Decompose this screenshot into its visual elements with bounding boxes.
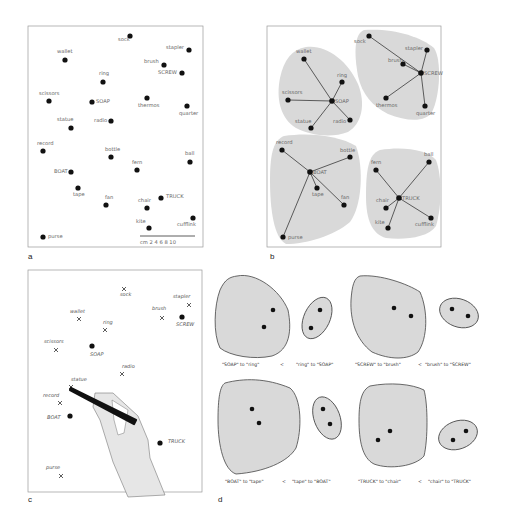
comparison-op-3: < xyxy=(282,479,286,484)
dot xyxy=(262,325,267,330)
dot xyxy=(308,125,313,130)
item-label: wallet xyxy=(57,48,73,54)
panel-d-asymmetry: "SOAP" to "ring" < "ring" to "SOAP" "SCR… xyxy=(215,275,482,504)
dot xyxy=(422,103,427,108)
comparison-op-4: < xyxy=(418,479,422,484)
figure: sockstaplerwalletbrushSCREWringscissorsS… xyxy=(0,0,506,522)
item-label: radio xyxy=(333,118,346,124)
landmark-label: SCREW xyxy=(176,321,195,327)
item-label: quarter xyxy=(179,110,199,117)
item-label: purse xyxy=(288,234,303,241)
item-label: BOAT xyxy=(54,168,69,174)
comparison-right-1: "ring" to "SOAP" xyxy=(296,362,333,367)
item-label: chair xyxy=(376,197,390,203)
dot xyxy=(321,407,326,412)
comparison-op-1: < xyxy=(280,362,284,367)
blob-tape-small xyxy=(307,393,346,443)
comparison-left-2: "SCREW" to "brush" xyxy=(355,362,401,367)
panel-c-recall-task: sockstaplerwalletbrushringscissorsradios… xyxy=(28,270,202,504)
item-label: statue xyxy=(57,116,73,122)
dot xyxy=(464,429,469,434)
dot xyxy=(424,47,429,52)
blob-boat-large xyxy=(218,380,300,474)
dot xyxy=(134,167,139,172)
item-label: quarter xyxy=(416,110,436,117)
dot xyxy=(187,159,192,164)
dot xyxy=(285,97,290,102)
dot xyxy=(318,308,323,313)
dot xyxy=(392,306,397,311)
item-label: thermos xyxy=(138,102,160,108)
dot xyxy=(100,79,105,84)
dot xyxy=(179,70,184,75)
dot xyxy=(301,56,306,61)
dot xyxy=(68,169,73,174)
blob-truck-large xyxy=(359,384,427,467)
item-label: thermos xyxy=(376,102,398,108)
item-label: wallet xyxy=(296,48,312,54)
item-label: ring xyxy=(103,319,113,326)
dot xyxy=(146,225,151,230)
item-label: brush xyxy=(144,58,159,64)
item-label: record xyxy=(43,392,60,398)
hub-dot xyxy=(418,70,424,76)
item-label: tape xyxy=(312,191,324,198)
dot xyxy=(40,148,45,153)
dot xyxy=(388,429,393,434)
dot xyxy=(68,125,73,130)
item-label: radio xyxy=(122,363,135,369)
dot xyxy=(279,147,284,152)
item-label: statue xyxy=(71,376,87,382)
dot xyxy=(271,308,276,313)
item-label: wallet xyxy=(70,308,86,314)
dot xyxy=(451,438,456,443)
dot xyxy=(179,314,184,319)
dot xyxy=(309,326,314,331)
panel-a-frame xyxy=(28,26,203,247)
dot xyxy=(347,117,352,122)
blob-soap-large xyxy=(215,275,290,357)
item-label: brush xyxy=(152,305,166,311)
dot xyxy=(62,57,67,62)
dot xyxy=(426,159,431,164)
dot xyxy=(341,202,346,207)
hub-label: SCREW xyxy=(424,70,443,76)
hub-dot xyxy=(396,195,402,201)
item-label: ball xyxy=(185,150,194,156)
comparison-left-3: "BOAT" to "tape" xyxy=(225,479,264,484)
dot xyxy=(184,103,189,108)
scale-label: cm 2 4 6 8 10 xyxy=(140,239,176,245)
item-label: stapler xyxy=(173,293,191,300)
dot xyxy=(46,98,51,103)
hub-dot xyxy=(329,98,335,104)
item-label: fan xyxy=(341,194,349,200)
dot xyxy=(75,185,80,190)
dot xyxy=(428,215,433,220)
dot xyxy=(108,154,113,159)
comparison-op-2: < xyxy=(418,362,422,367)
dot xyxy=(144,95,149,100)
item-label: scissors xyxy=(44,338,64,344)
item-label: radio xyxy=(94,117,107,123)
item-label: fern xyxy=(132,159,142,165)
item-label: stapler xyxy=(166,44,185,51)
dot xyxy=(89,99,94,104)
item-label: ring xyxy=(99,70,109,77)
item-label: cufflink xyxy=(177,221,196,227)
hub-label: BOAT xyxy=(313,169,328,175)
item-label: bottle xyxy=(340,147,355,153)
comparison-left-1: "SOAP" to "ring" xyxy=(222,362,259,367)
item-label: purse xyxy=(45,464,60,471)
dot xyxy=(366,33,371,38)
dot xyxy=(40,234,45,239)
item-label: bottle xyxy=(105,146,120,152)
dot xyxy=(280,234,285,239)
landmark-label: SOAP xyxy=(90,351,104,357)
dot xyxy=(186,47,191,52)
item-label: SCREW xyxy=(158,69,177,75)
dot xyxy=(383,205,388,210)
comparison-right-3: "tape" to "BOAT" xyxy=(292,479,331,484)
dot xyxy=(373,167,378,172)
panel-letter-c: c xyxy=(28,495,32,504)
item-label: brush xyxy=(388,57,403,63)
